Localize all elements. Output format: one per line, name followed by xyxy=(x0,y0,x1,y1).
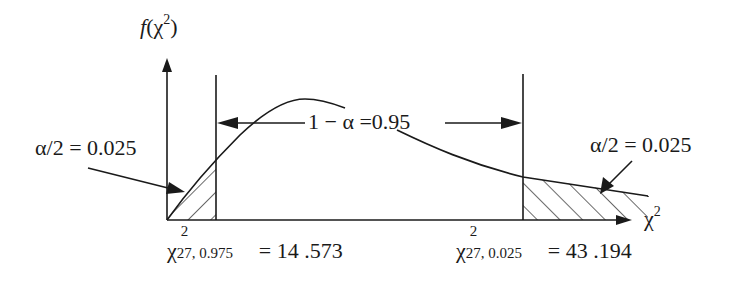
center-region-label: 1 − α =0.95 xyxy=(308,111,410,133)
x-label-var: χ xyxy=(644,206,654,231)
lower-critical-label: χ 2 27, 0.975 = 14 .573 xyxy=(167,236,343,262)
upper-critical-indices: 2 27, 0.025 xyxy=(466,236,546,258)
right-tail-hatch xyxy=(520,170,655,225)
x-label-sup: 2 xyxy=(654,204,661,219)
left-arrowhead-icon xyxy=(217,117,238,129)
y-axis xyxy=(162,58,172,220)
right-tail-pointer xyxy=(600,161,632,194)
upper-critical-var: χ xyxy=(456,240,466,262)
lower-critical-indices: 2 27, 0.975 xyxy=(177,236,257,258)
y-axis-arrow-icon xyxy=(162,58,172,72)
center-label-eq: = xyxy=(359,109,371,134)
lower-critical-sup: 2 xyxy=(181,224,189,239)
upper-critical-label: χ 2 27, 0.025 = 43 .194 xyxy=(456,236,632,262)
x-axis-label: χ2 xyxy=(644,208,661,230)
upper-critical-sub: 27, 0.025 xyxy=(466,246,522,261)
center-label-value: 0.95 xyxy=(372,109,411,134)
right-arrowhead-icon xyxy=(501,117,522,129)
lower-critical-eq: = xyxy=(259,240,271,262)
upper-critical-eq: = xyxy=(548,240,560,262)
y-axis-label: f(χ2) xyxy=(140,16,178,38)
right-tail-label: α/2 = 0.025 xyxy=(590,134,692,156)
y-label-var: χ xyxy=(153,14,163,39)
center-label-lhs: 1 − α xyxy=(308,109,354,134)
left-tail-pointer xyxy=(88,168,185,194)
left-pointer-arrowhead-icon xyxy=(166,182,185,194)
left-tail-label: α/2 = 0.025 xyxy=(35,137,137,159)
upper-critical-sup: 2 xyxy=(470,224,478,239)
upper-critical-value: 43 .194 xyxy=(566,240,632,262)
y-label-close: ) xyxy=(170,14,177,39)
lower-critical-sub: 27, 0.975 xyxy=(177,246,233,261)
lower-critical-value: 14 .573 xyxy=(277,240,343,262)
lower-critical-var: χ xyxy=(167,240,177,262)
y-label-sup: 2 xyxy=(163,12,170,27)
